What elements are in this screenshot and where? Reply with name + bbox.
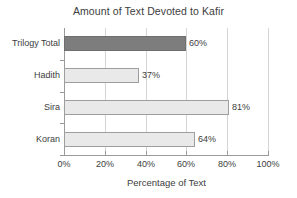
y-tick-mark bbox=[60, 60, 64, 61]
x-tick-mark bbox=[227, 151, 228, 156]
bar-chart: Amount of Text Devoted to Kafir Percenta… bbox=[0, 0, 297, 198]
y-tick-mark bbox=[60, 92, 64, 93]
x-tick-mark bbox=[105, 151, 106, 156]
x-tick-mark bbox=[64, 151, 65, 156]
category-label: Sira bbox=[2, 102, 60, 113]
gridline-vertical bbox=[227, 28, 228, 155]
bar-value-label: 81% bbox=[232, 100, 250, 115]
x-tick-mark bbox=[268, 151, 269, 156]
x-tick-label: 20% bbox=[96, 159, 114, 169]
x-tick-label: 0% bbox=[57, 159, 70, 169]
x-axis-title: Percentage of Text bbox=[64, 177, 269, 188]
bar bbox=[64, 100, 229, 115]
bar bbox=[64, 68, 139, 83]
category-label: Trilogy Total bbox=[2, 38, 60, 49]
bar bbox=[64, 36, 186, 51]
category-label: Hadith bbox=[2, 70, 60, 81]
y-tick-mark bbox=[60, 123, 64, 124]
bar-value-label: 64% bbox=[198, 132, 216, 147]
x-tick-label: 40% bbox=[137, 159, 155, 169]
x-tick-label: 100% bbox=[256, 159, 279, 169]
x-tick-label: 60% bbox=[177, 159, 195, 169]
x-tick-mark bbox=[186, 151, 187, 156]
bar bbox=[64, 132, 195, 147]
bar-value-label: 60% bbox=[189, 36, 207, 51]
gridline-vertical bbox=[268, 28, 269, 155]
category-label: Koran bbox=[2, 134, 60, 145]
x-axis-line bbox=[64, 155, 269, 156]
x-tick-mark bbox=[146, 151, 147, 156]
x-tick-label: 80% bbox=[218, 159, 236, 169]
y-tick-mark bbox=[60, 155, 64, 156]
bar-value-label: 37% bbox=[142, 68, 160, 83]
chart-title: Amount of Text Devoted to Kafir bbox=[0, 5, 297, 17]
